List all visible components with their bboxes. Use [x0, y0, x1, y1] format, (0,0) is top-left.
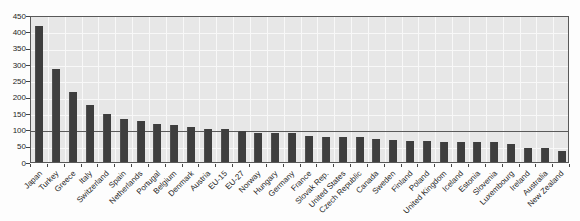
reference-line: [31, 131, 568, 132]
bar: [339, 137, 347, 162]
vertical-gridline: [250, 17, 251, 162]
bar: [120, 119, 128, 162]
vertical-gridline: [452, 17, 453, 162]
vertical-gridline: [267, 17, 268, 162]
x-axis-tick: [198, 164, 199, 167]
bar: [204, 129, 212, 162]
vertical-gridline: [115, 17, 116, 162]
x-axis-tick: [131, 164, 132, 167]
bar: [238, 131, 246, 162]
bar: [457, 142, 465, 162]
vertical-gridline: [216, 17, 217, 162]
bar: [221, 129, 229, 162]
vertical-gridline: [233, 17, 234, 162]
bar: [170, 125, 178, 162]
vertical-gridline: [132, 17, 133, 162]
x-axis-tick: [451, 164, 452, 167]
x-axis-tick: [367, 164, 368, 167]
x-axis-tick: [114, 164, 115, 167]
bar: [406, 141, 414, 162]
horizontal-gridline: [31, 99, 568, 100]
x-axis-tick: [81, 164, 82, 167]
y-tick-label: 400: [0, 28, 26, 37]
vertical-gridline: [48, 17, 49, 162]
vertical-gridline: [284, 17, 285, 162]
y-tick-label: 50: [0, 142, 26, 151]
vertical-gridline: [469, 17, 470, 162]
y-tick-label: 450: [0, 12, 26, 21]
vertical-gridline: [166, 17, 167, 162]
horizontal-gridline: [31, 115, 568, 116]
bar: [440, 142, 448, 162]
bar: [153, 124, 161, 162]
bar: [372, 139, 380, 162]
vertical-gridline: [183, 17, 184, 162]
horizontal-gridline: [31, 82, 568, 83]
x-axis-tick: [434, 164, 435, 167]
vertical-gridline: [149, 17, 150, 162]
bar: [52, 69, 60, 162]
bar: [423, 141, 431, 162]
bar: [86, 105, 94, 163]
vertical-gridline: [301, 17, 302, 162]
bar: [473, 142, 481, 162]
x-axis-tick: [350, 164, 351, 167]
bar: [187, 127, 195, 162]
vertical-gridline: [435, 17, 436, 162]
vertical-gridline: [520, 17, 521, 162]
bar: [103, 114, 111, 162]
bar: [254, 133, 262, 162]
y-tick-label: 250: [0, 77, 26, 86]
x-axis-tick: [249, 164, 250, 167]
vertical-gridline: [418, 17, 419, 162]
x-axis-tick: [97, 164, 98, 167]
vertical-gridline: [98, 17, 99, 162]
x-axis-tick: [485, 164, 486, 167]
x-axis-tick: [165, 164, 166, 167]
horizontal-gridline: [31, 50, 568, 51]
x-axis-tick: [316, 164, 317, 167]
x-axis-tick: [47, 164, 48, 167]
x-axis-tick: [519, 164, 520, 167]
bar: [69, 92, 77, 162]
horizontal-gridline: [31, 66, 568, 67]
vertical-gridline: [503, 17, 504, 162]
bar: [389, 140, 397, 162]
x-axis-tick: [300, 164, 301, 167]
x-axis-tick: [148, 164, 149, 167]
x-axis-tick: [401, 164, 402, 167]
vertical-gridline: [536, 17, 537, 162]
x-axis-tick: [283, 164, 284, 167]
vertical-gridline: [486, 17, 487, 162]
x-axis-tick: [468, 164, 469, 167]
x-axis-tick: [64, 164, 65, 167]
x-axis-tick: [552, 164, 553, 167]
bar: [541, 148, 549, 162]
y-tick-label: 100: [0, 126, 26, 135]
vertical-gridline: [368, 17, 369, 162]
x-axis-tick: [215, 164, 216, 167]
bar: [288, 133, 296, 162]
y-tick-label: 300: [0, 61, 26, 70]
x-axis-tick: [384, 164, 385, 167]
bar: [507, 144, 515, 162]
bar: [322, 137, 330, 163]
y-tick-label: 200: [0, 93, 26, 102]
bar: [305, 136, 313, 162]
y-tick-label: 0: [0, 159, 26, 168]
vertical-gridline: [65, 17, 66, 162]
x-axis-tick: [333, 164, 334, 167]
x-axis-tick: [417, 164, 418, 167]
vertical-gridline: [385, 17, 386, 162]
x-axis-tick: [232, 164, 233, 167]
horizontal-gridline: [31, 148, 568, 149]
x-axis-tick: [30, 164, 31, 167]
x-axis-tick: [535, 164, 536, 167]
bar: [558, 151, 566, 162]
vertical-gridline: [317, 17, 318, 162]
horizontal-gridline: [31, 33, 568, 34]
y-tick-label: 150: [0, 110, 26, 119]
vertical-gridline: [82, 17, 83, 162]
bar-chart: 050100150200250300350400450JapanTurkeyGr…: [0, 0, 580, 221]
vertical-gridline: [199, 17, 200, 162]
